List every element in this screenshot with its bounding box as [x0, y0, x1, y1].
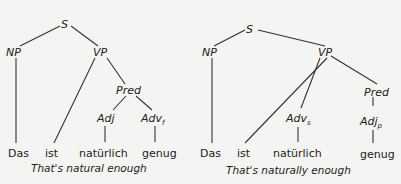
node-s: S [246, 23, 253, 36]
caption-tree-2: That's naturally enough [226, 164, 351, 176]
word-ist: ist [45, 147, 59, 160]
word-das: Das [200, 147, 221, 160]
node-np: NP [202, 46, 217, 59]
caption-tree-1: That's natural enough [31, 162, 147, 174]
syntax-tree-diagram: S NP VP Pred Adj Advf Das ist natürlich … [0, 0, 401, 184]
word-natuerlich: natürlich [79, 147, 128, 160]
word-das: Das [8, 147, 29, 160]
edge-s-np [214, 30, 245, 46]
word-ist: ist [237, 147, 251, 160]
edge-vp-adv [301, 58, 320, 108]
word-genug: genug [142, 147, 177, 160]
tree-1: S NP VP Pred Adj Advf Das ist natürlich … [6, 18, 177, 174]
node-vp: VP [318, 46, 333, 59]
node-adj-p: Adjp [359, 115, 383, 130]
edge-pred-adv [136, 96, 152, 110]
edge-pred-adj [113, 96, 126, 110]
word-natuerlich: natürlich [273, 147, 322, 160]
node-pred: Pred [116, 84, 142, 97]
node-vp: VP [93, 46, 108, 59]
edge-s-vp [258, 30, 325, 46]
edge-vp-pred [107, 58, 125, 84]
edge-vp-ist [54, 58, 95, 143]
node-np: NP [6, 46, 21, 59]
node-s: S [61, 18, 68, 31]
node-adj: Adj [96, 112, 116, 125]
edge-s-vp [71, 26, 98, 46]
node-adv-s: Advs [285, 112, 311, 127]
edge-vp-pred [331, 56, 377, 84]
node-adv-f: Advf [140, 112, 166, 127]
edge-s-np [20, 26, 60, 46]
tree-2: S NP VP Advs Pred Adjp Das ist natürlich… [200, 23, 395, 176]
node-pred: Pred [364, 86, 390, 99]
word-genug: genug [360, 148, 395, 161]
